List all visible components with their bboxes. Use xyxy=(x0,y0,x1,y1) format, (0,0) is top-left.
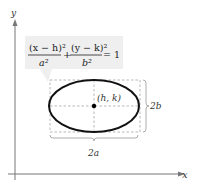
center-point xyxy=(92,104,96,108)
ellipse-diagram: y x (x − h)² a² + (y − k)² b² = 1 (h, k)… xyxy=(0,0,203,189)
term1-denominator: a² xyxy=(39,57,49,68)
minor-axis-label: 2b xyxy=(149,101,162,111)
equation-callout: (x − h)² a² + (y − k)² b² = 1 xyxy=(25,36,123,82)
term1-numerator: (x − h)² xyxy=(29,42,66,53)
equals-one: = 1 xyxy=(103,49,120,60)
term2-denominator: b² xyxy=(82,57,92,68)
major-axis-label: 2a xyxy=(87,148,99,158)
minor-axis-brace xyxy=(143,80,149,132)
y-axis-label: y xyxy=(10,8,17,18)
x-axis-label: x xyxy=(182,169,188,180)
major-axis-brace xyxy=(50,135,138,141)
center-label: (h, k) xyxy=(97,93,121,103)
